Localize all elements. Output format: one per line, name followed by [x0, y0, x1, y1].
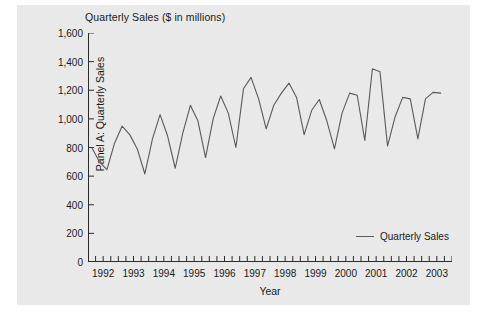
x-tick-label: 2002: [395, 268, 417, 279]
y-tick-label: 1,400: [58, 56, 83, 67]
x-tick-label: 1999: [304, 268, 326, 279]
y-tick-label: 1,600: [58, 28, 83, 39]
y-tick-label: 0: [77, 257, 83, 268]
x-axis-title: Year: [88, 285, 452, 297]
x-tick-label: 2000: [335, 268, 357, 279]
x-tick-label: 1995: [183, 268, 205, 279]
x-tick-label: 1996: [213, 268, 235, 279]
quarterly-sales-line: [92, 69, 441, 174]
chart-legend: Quarterly Sales: [356, 231, 449, 242]
x-axis-ticks: [88, 256, 452, 261]
x-tick-label: 1992: [92, 268, 114, 279]
y-axis-tick-labels: 02004006008001,0001,2001,4001,600: [38, 33, 83, 262]
y-tick-label: 200: [66, 228, 83, 239]
y-tick-label: 400: [66, 199, 83, 210]
x-tick-label: 2001: [365, 268, 387, 279]
y-tick-label: 1,000: [58, 113, 83, 124]
plot-area: [88, 33, 452, 262]
legend-line-swatch: [356, 236, 374, 237]
figure-container: Quarterly Sales ($ in millions) Panel A:…: [0, 0, 488, 330]
y-tick-label: 600: [66, 171, 83, 182]
y-tick-label: 800: [66, 142, 83, 153]
legend-label: Quarterly Sales: [380, 231, 449, 242]
axis-lines: [88, 33, 452, 262]
x-tick-label: 1994: [153, 268, 175, 279]
x-tick-label: 1997: [244, 268, 266, 279]
x-tick-label: 2003: [426, 268, 448, 279]
x-axis-tick-labels: 1992199319941995199619971998199920002001…: [88, 268, 452, 284]
y-tick-label: 1,200: [58, 85, 83, 96]
line-chart-svg: [88, 33, 452, 262]
x-tick-label: 1993: [122, 268, 144, 279]
x-tick-label: 1998: [274, 268, 296, 279]
